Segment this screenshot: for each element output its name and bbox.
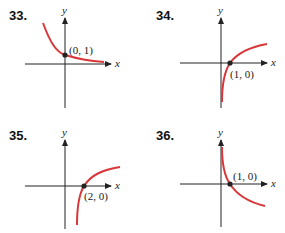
point-label: (0, 1) — [69, 44, 93, 57]
x-axis-label: x — [114, 179, 120, 191]
point-label: (1, 0) — [233, 170, 257, 183]
point-label: (2, 0) — [84, 190, 108, 203]
x-axis-label: x — [270, 56, 276, 68]
x-axis-label: x — [114, 57, 120, 69]
point-marker — [81, 183, 86, 188]
curve — [43, 23, 104, 62]
point-marker — [227, 181, 232, 186]
point-marker — [62, 52, 67, 57]
point-marker — [227, 60, 232, 65]
y-axis-label: y — [217, 4, 223, 16]
graph-35: y x (2, 0) — [25, 126, 120, 229]
graph-33: y x (0, 1) — [25, 4, 120, 108]
point-label: (1, 0) — [230, 68, 254, 81]
graph-34: y x (1, 0) — [180, 4, 276, 108]
graph-36: y x (1, 0) — [180, 126, 276, 227]
graphs-canvas: y x (0, 1) y x (1, 0) y x (2, 0) y x (1,… — [0, 0, 285, 233]
y-axis-label: y — [61, 126, 67, 138]
y-axis-label: y — [217, 126, 223, 138]
y-axis-label: y — [61, 4, 67, 16]
x-axis-label: x — [270, 177, 276, 189]
